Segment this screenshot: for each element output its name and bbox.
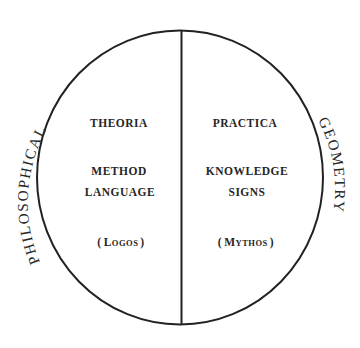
outer-circle [37, 31, 323, 325]
left-paren-term: (LOGOS) [97, 236, 144, 249]
right-line-1: KNOWLEDGE [206, 165, 288, 177]
right-heading: PRACTICA [213, 117, 278, 129]
label-geometry: GEOMETRY [315, 114, 348, 214]
label-philosophical: PHILOSOPHICAL [15, 122, 50, 266]
split-circle-diagram: PHILOSOPHICAL GEOMETRY THEORIA METHOD LA… [0, 0, 360, 348]
left-line-2: LANGUAGE [85, 186, 155, 198]
left-heading: THEORIA [90, 117, 148, 129]
right-paren-term: (MYTHOS) [218, 236, 274, 249]
left-line-1: METHOD [91, 165, 146, 177]
right-line-2: SIGNS [228, 186, 265, 198]
